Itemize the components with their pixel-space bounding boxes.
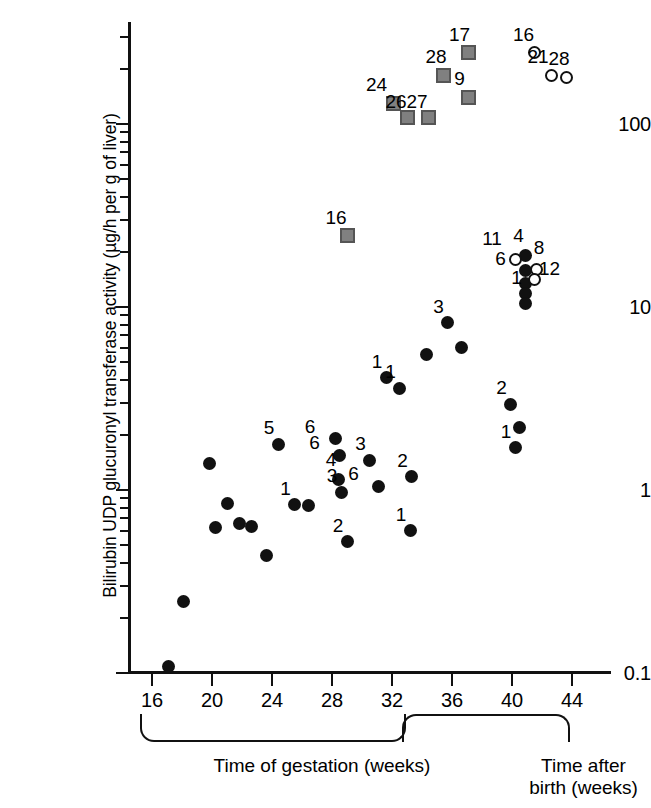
x-axis-caption-postnatal: Time after birth (weeks) bbox=[516, 755, 651, 799]
data-point-label: 1 bbox=[486, 422, 526, 441]
data-point-label: 6 bbox=[334, 464, 374, 483]
data-point-label: 28 bbox=[416, 47, 456, 66]
data-point-label: 1 bbox=[266, 479, 306, 498]
data-point-filled-circle bbox=[272, 438, 285, 451]
data-point-filled-circle bbox=[393, 382, 406, 395]
data-point-open-circle bbox=[560, 71, 573, 84]
gestation-brace-right bbox=[402, 714, 570, 742]
data-point-filled-circle bbox=[302, 499, 315, 512]
data-point-label: 16 bbox=[504, 25, 544, 44]
data-point-filled-circle bbox=[509, 441, 522, 454]
data-point-filled-circle bbox=[405, 470, 418, 483]
data-point-square bbox=[461, 45, 476, 60]
data-point-label: 9 bbox=[440, 69, 480, 88]
data-point-label: 12 bbox=[530, 259, 570, 278]
data-point-square bbox=[421, 110, 436, 125]
postnatal-caption-line1: Time after bbox=[516, 755, 651, 777]
data-point-square bbox=[400, 110, 415, 125]
data-point-filled-circle bbox=[162, 660, 175, 673]
data-point-label: 1 bbox=[371, 362, 411, 381]
data-point-filled-circle bbox=[203, 457, 216, 470]
data-point-label: 2 bbox=[482, 378, 522, 397]
data-point-open-circle bbox=[545, 69, 558, 82]
data-point-filled-circle bbox=[404, 524, 417, 537]
figure-scatter-plot: Bilirubin UDP glucuronyl transferase act… bbox=[0, 0, 651, 808]
data-point-label: 16 bbox=[316, 208, 356, 227]
data-point-filled-circle bbox=[209, 521, 222, 534]
data-point-label: 2 bbox=[318, 516, 358, 535]
data-point-filled-circle bbox=[341, 535, 354, 548]
data-point-label: 2 bbox=[383, 451, 423, 470]
data-point-label: 17 bbox=[440, 25, 480, 44]
data-point-filled-circle bbox=[519, 297, 532, 310]
x-axis-caption-gestation: Time of gestation (weeks) bbox=[122, 755, 522, 777]
data-point-label: 27 bbox=[397, 92, 437, 111]
data-point-label: 3 bbox=[419, 297, 459, 316]
data-point-filled-circle bbox=[260, 549, 273, 562]
data-point-square bbox=[340, 228, 355, 243]
data-point-label: 5 bbox=[249, 418, 289, 437]
gestation-brace-left bbox=[140, 714, 406, 742]
data-point-label: 28 bbox=[539, 49, 579, 68]
data-point-filled-circle bbox=[504, 398, 517, 411]
data-point-filled-circle bbox=[233, 517, 246, 530]
data-point-label: 1 bbox=[381, 505, 421, 524]
postnatal-caption-line2: birth (weeks) bbox=[516, 777, 651, 799]
data-point-filled-circle bbox=[455, 341, 468, 354]
data-point-filled-circle bbox=[420, 348, 433, 361]
data-point-filled-circle bbox=[245, 520, 258, 533]
data-point-label: 11 bbox=[472, 229, 512, 248]
data-point-filled-circle bbox=[335, 486, 348, 499]
data-point-label: 8 bbox=[519, 238, 559, 257]
data-point-square bbox=[461, 90, 476, 105]
plot-area: 5166432361121321461118121621281624262728… bbox=[0, 0, 651, 808]
data-point-filled-circle bbox=[177, 595, 190, 608]
data-point-label: 3 bbox=[341, 434, 381, 453]
data-point-filled-circle bbox=[372, 480, 385, 493]
data-point-filled-circle bbox=[221, 497, 234, 510]
data-point-filled-circle bbox=[288, 498, 301, 511]
data-point-filled-circle bbox=[441, 316, 454, 329]
